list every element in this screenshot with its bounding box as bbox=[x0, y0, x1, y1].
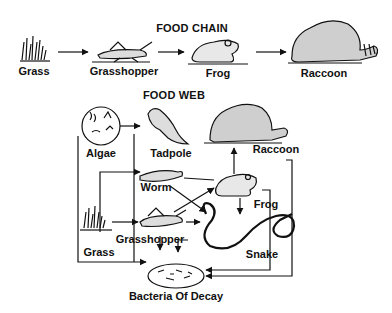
chain-frog-icon bbox=[188, 40, 248, 64]
bacteria-icon bbox=[148, 264, 204, 288]
snake-icon bbox=[204, 203, 294, 248]
web-label-raccoon: Raccoon bbox=[253, 143, 299, 155]
chain-label-raccoon: Raccoon bbox=[301, 67, 347, 79]
web-label-algae: Algae bbox=[86, 147, 116, 159]
web-label-grass: Grass bbox=[83, 246, 114, 258]
frog-icon bbox=[216, 174, 257, 196]
chain-label-frog: Frog bbox=[206, 67, 230, 79]
web-label-grasshopper: Grasshopper bbox=[116, 233, 184, 245]
raccoon-icon bbox=[204, 104, 288, 143]
web-label-worm: Worm bbox=[141, 181, 172, 193]
chain-raccoon-icon bbox=[288, 21, 378, 63]
grass-icon bbox=[80, 206, 112, 230]
tadpole-icon bbox=[148, 109, 188, 144]
food-diagram-artwork bbox=[0, 0, 392, 313]
web-label-snake: Snake bbox=[246, 248, 278, 260]
web-label-tadpole: Tadpole bbox=[150, 147, 191, 159]
grasshopper-icon bbox=[140, 208, 186, 227]
food-chain-title: FOOD CHAIN bbox=[156, 22, 228, 34]
web-label-bacteria: Bacteria Of Decay bbox=[129, 290, 223, 302]
chain-label-grass: Grass bbox=[18, 65, 49, 77]
chain-grass-icon bbox=[20, 36, 50, 61]
web-label-frog: Frog bbox=[254, 198, 278, 210]
worm-icon bbox=[140, 171, 183, 182]
chain-label-grasshopper: Grasshopper bbox=[90, 65, 158, 77]
food-web-title: FOOD WEB bbox=[143, 89, 205, 101]
algae-icon bbox=[82, 107, 120, 145]
chain-grasshopper-icon bbox=[92, 42, 152, 62]
